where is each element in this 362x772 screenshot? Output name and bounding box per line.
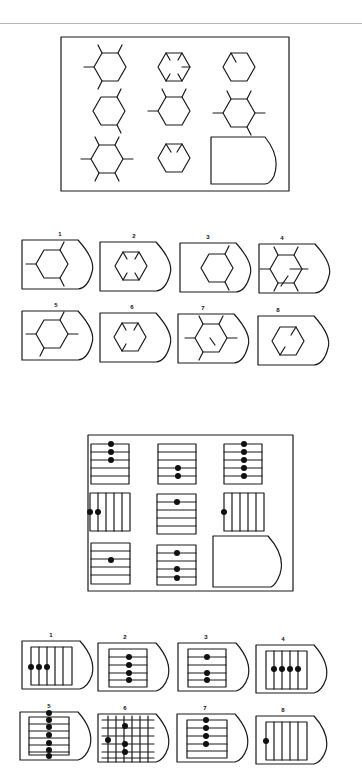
option-4[interactable]: 4 [256, 636, 327, 693]
option-label: 1 [49, 632, 53, 638]
option-label: 3 [204, 634, 208, 640]
option-label: 5 [47, 703, 51, 709]
cell-lines-r1c3 [224, 441, 262, 484]
cell-hexagon-r1c3 [223, 53, 255, 81]
cell-lines-r2c3 [221, 493, 264, 531]
option-label: 1 [58, 231, 62, 237]
puzzle-canvas: 1 2 3 4 5 6 [0, 0, 362, 772]
option-2[interactable]: 2 [98, 634, 169, 691]
problem2-options[interactable]: 1 2 3 4 [20, 632, 327, 764]
option-8[interactable]: 8 [258, 307, 329, 365]
option-1[interactable]: 1 [22, 632, 93, 689]
answer-slot [213, 536, 282, 587]
cell-lines-r1c1 [91, 441, 129, 484]
cell-lines-r1c2 [158, 444, 196, 484]
option-8[interactable]: 8 [256, 707, 327, 764]
option-label: 7 [203, 705, 207, 711]
option-1[interactable]: 1 [22, 231, 93, 289]
option-7[interactable]: 7 [178, 305, 249, 363]
option-label: 6 [123, 705, 127, 711]
cell-hexagon-r2c3 [213, 91, 265, 135]
problem1-matrix [61, 37, 289, 191]
option-label: 6 [130, 304, 134, 310]
option-6[interactable]: 6 [98, 705, 169, 762]
problem2-matrix [87, 435, 293, 591]
option-3[interactable]: 3 [178, 634, 249, 691]
cell-lines-r2c2 [157, 494, 196, 534]
option-4[interactable]: 4 [259, 235, 330, 293]
option-label: 4 [281, 636, 285, 642]
answer-slot [211, 137, 276, 184]
option-label: 4 [280, 235, 284, 241]
option-3[interactable]: 3 [180, 234, 251, 292]
option-label: 2 [132, 233, 136, 239]
cell-lines-r2c1 [87, 493, 130, 531]
option-2[interactable]: 2 [100, 233, 171, 291]
option-label: 5 [54, 302, 58, 308]
cell-hexagon-r3c2 [158, 144, 190, 172]
problem1-options[interactable]: 1 2 3 4 5 6 [22, 231, 330, 365]
option-5[interactable]: 5 [22, 302, 93, 360]
option-5[interactable]: 5 [20, 703, 91, 760]
option-7[interactable]: 7 [177, 705, 248, 762]
option-label: 2 [123, 634, 127, 640]
cell-lines-r3c2 [157, 545, 196, 585]
cell-hexagon-r1c2 [158, 53, 190, 81]
option-label: 3 [206, 234, 210, 240]
option-6[interactable]: 6 [100, 304, 171, 362]
cell-lines-r3c1 [91, 543, 130, 584]
cell-hexagon-r2c1 [93, 89, 125, 133]
option-label: 8 [276, 307, 280, 313]
cell-hexagon-r3c1 [81, 137, 133, 181]
option-label: 7 [201, 305, 205, 311]
cell-hexagon-r2c2 [148, 89, 190, 125]
cell-hexagon-r1c1 [84, 45, 126, 89]
option-label: 8 [281, 707, 285, 713]
